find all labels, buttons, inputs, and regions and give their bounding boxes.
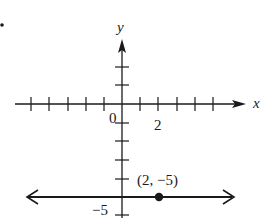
y-axis-label: y	[115, 19, 124, 35]
x-axis	[15, 97, 246, 111]
bullet-mark	[0, 23, 4, 27]
y-axis	[115, 39, 129, 218]
x-axis-label: x	[252, 95, 260, 111]
line-y-equals-neg5	[27, 190, 234, 204]
y-tick-label-neg5: −5	[92, 202, 108, 218]
point-2-neg5	[155, 193, 163, 201]
coordinate-plane: x y 0 2 (2, −5) −5	[0, 0, 264, 218]
x-tick-label-2: 2	[154, 117, 162, 133]
point-label: (2, −5)	[137, 172, 178, 189]
origin-label: 0	[109, 110, 117, 126]
